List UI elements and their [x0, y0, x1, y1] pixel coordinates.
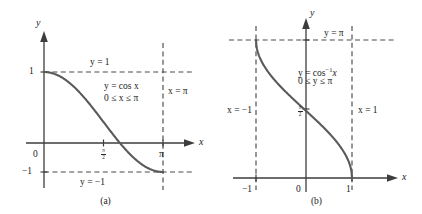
panel-a-curve-layer — [0, 0, 211, 214]
panel-b-xtick-minus-1: −1 — [242, 185, 252, 195]
panel-b-origin-label: 0 — [296, 185, 301, 195]
panel-a-x-axis-label: x — [199, 137, 203, 147]
panel-a-origin-label: 0 — [33, 150, 38, 160]
panel-b-curve — [256, 40, 352, 178]
figure-container: y x 1 −1 0 π π 2 y = 1 y = −1 x = π y = … — [0, 0, 422, 214]
panel-a-label-y-equals-1: y = 1 — [90, 56, 110, 69]
panel-b-xtick-1: 1 — [346, 185, 351, 195]
panel-a-ytick-minus-1: −1 — [22, 167, 32, 177]
panel-b-label-x-equals-1: x = 1 — [358, 104, 378, 117]
panel-a-y-axis-label: y — [36, 18, 40, 28]
panel-a-equation-line-2: 0 ≤ x ≤ π — [104, 92, 138, 105]
panel-a-cosine-graph: y x 1 −1 0 π π 2 y = 1 y = −1 x = π y = … — [0, 0, 211, 214]
panel-b-pi-over-2-denominator: 2 — [296, 112, 304, 117]
panel-a-caption: (a) — [0, 196, 211, 206]
panel-b-x-axis — [233, 174, 398, 182]
panel-b-pi-over-2-numerator: π — [296, 105, 304, 110]
panel-b-x-axis-label: x — [402, 172, 406, 182]
panel-a-xtick-pi: π — [159, 150, 164, 160]
panel-b-label-y-equals-pi: y = π — [324, 27, 344, 40]
panel-a-label-y-equals-minus-1: y = −1 — [80, 176, 105, 189]
panel-a-xtick-pi-over-2: π 2 — [100, 148, 108, 160]
panel-b-caption: (b) — [211, 196, 422, 206]
panel-a-pi-over-2-denominator: 2 — [100, 155, 108, 160]
panel-b-equation-line-2: 0 ≤ y ≤ π — [298, 75, 332, 88]
panel-a-pi-over-2-numerator: π — [100, 148, 108, 153]
panel-b-y-axis-label: y — [310, 8, 314, 18]
panel-b-arccosine-graph: y x −1 0 1 π 2 y = π x = −1 x = 1 y = co… — [211, 0, 422, 214]
panel-b-equation-post: x — [332, 68, 336, 78]
panel-b-ytick-pi-over-2: π 2 — [296, 105, 304, 117]
panel-b-tick-marks — [256, 40, 352, 182]
panel-b-label-x-equals-minus-1: x = −1 — [227, 104, 252, 117]
panel-a-label-x-equals-pi: x = π — [168, 85, 188, 98]
panel-a-ytick-1: 1 — [29, 67, 34, 77]
